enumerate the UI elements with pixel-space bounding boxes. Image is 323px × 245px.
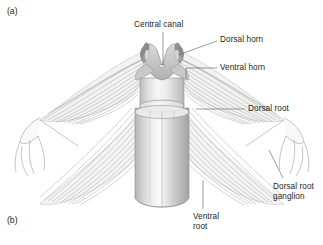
gray-matter-butterfly bbox=[135, 43, 188, 80]
dorsal-root-ganglion-left bbox=[15, 118, 78, 176]
label-ventral-horn: Ventral horn bbox=[220, 63, 265, 73]
label-dorsal-horn: Dorsal horn bbox=[220, 35, 263, 45]
central-canal-marker bbox=[159, 64, 164, 67]
spinal-cord-illustration bbox=[0, 0, 323, 245]
panel-tag-a: (a) bbox=[7, 6, 18, 16]
leader-dorsal-root-ganglion bbox=[269, 150, 283, 178]
label-ventral-root: Ventral root bbox=[193, 212, 219, 232]
figure-canvas: (a) (b) Central canal Dorsal horn Ventra… bbox=[0, 0, 323, 245]
label-dorsal-root-ganglion: Dorsal root ganglion bbox=[273, 182, 314, 202]
panel-tag-b: (b) bbox=[7, 215, 18, 225]
spinal-cord-cylinder bbox=[135, 78, 189, 207]
label-central-canal: Central canal bbox=[134, 20, 183, 30]
label-dorsal-root: Dorsal root bbox=[248, 104, 289, 114]
leader-dorsal-horn bbox=[178, 41, 217, 55]
